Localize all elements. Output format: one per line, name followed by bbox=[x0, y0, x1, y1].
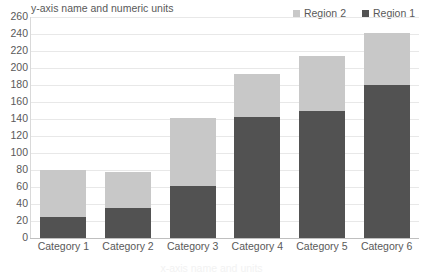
bar-segment-region-2[interactable] bbox=[234, 74, 280, 117]
y-axis-tick-labels: 260240220200180160140120100806040200 bbox=[0, 17, 28, 238]
y-axis-title: y-axis name and numeric units bbox=[31, 2, 173, 14]
y-axis-tick-label: 0 bbox=[2, 232, 28, 243]
bar-stack[interactable] bbox=[40, 170, 86, 238]
y-axis-tick-label: 160 bbox=[2, 96, 28, 107]
legend-swatch-region-2 bbox=[293, 10, 300, 17]
x-axis-tick-label: Category 2 bbox=[96, 240, 160, 253]
bar-stack[interactable] bbox=[234, 74, 280, 238]
x-axis-tick-label: Category 1 bbox=[31, 240, 95, 253]
y-axis-tick-label: 200 bbox=[2, 62, 28, 73]
y-axis-tick-label: 80 bbox=[2, 164, 28, 175]
bar-segment-region-1[interactable] bbox=[40, 217, 86, 238]
bar-segment-region-2[interactable] bbox=[105, 172, 151, 209]
y-axis-tick-label: 40 bbox=[2, 198, 28, 209]
stacked-bar-chart: y-axis name and numeric units Region 2 R… bbox=[0, 0, 423, 280]
x-axis-tick-label: Category 3 bbox=[161, 240, 225, 253]
y-axis-tick-label: 260 bbox=[2, 11, 28, 22]
bar-segment-region-2[interactable] bbox=[40, 170, 86, 217]
bar-segment-region-2[interactable] bbox=[299, 56, 345, 110]
y-axis-tick-label: 60 bbox=[2, 181, 28, 192]
bar-stack[interactable] bbox=[170, 118, 216, 238]
legend-swatch-region-1 bbox=[362, 10, 369, 17]
x-axis-tick-label: Category 6 bbox=[355, 240, 419, 253]
bar-segment-region-1[interactable] bbox=[364, 85, 410, 238]
y-axis-tick-label: 20 bbox=[2, 215, 28, 226]
y-axis-tick-label: 240 bbox=[2, 28, 28, 39]
bar-column bbox=[31, 17, 95, 238]
x-axis-tick-label: Category 4 bbox=[225, 240, 289, 253]
plot-area bbox=[30, 17, 419, 238]
bar-segment-region-2[interactable] bbox=[170, 118, 216, 186]
x-axis-title: x-axis name and units bbox=[0, 262, 423, 274]
y-axis-tick-label: 220 bbox=[2, 45, 28, 56]
bar-stack[interactable] bbox=[299, 56, 345, 238]
bar-column bbox=[225, 17, 289, 238]
bar-series-group bbox=[31, 17, 419, 238]
bar-segment-region-1[interactable] bbox=[234, 117, 280, 238]
bar-column bbox=[355, 17, 419, 238]
x-axis-tick-labels: Category 1Category 2Category 3Category 4… bbox=[31, 240, 419, 256]
bar-segment-region-1[interactable] bbox=[170, 186, 216, 238]
y-axis-tick-label: 180 bbox=[2, 79, 28, 90]
x-axis-line bbox=[30, 238, 419, 239]
y-axis-tick-label: 120 bbox=[2, 130, 28, 141]
bar-column bbox=[96, 17, 160, 238]
bar-stack[interactable] bbox=[105, 172, 151, 238]
bar-segment-region-2[interactable] bbox=[364, 33, 410, 85]
x-axis-tick-label: Category 5 bbox=[290, 240, 354, 253]
bar-segment-region-1[interactable] bbox=[299, 111, 345, 239]
y-axis-tick-label: 100 bbox=[2, 147, 28, 158]
bar-column bbox=[290, 17, 354, 238]
bar-segment-region-1[interactable] bbox=[105, 208, 151, 238]
y-axis-tick-label: 140 bbox=[2, 113, 28, 124]
bar-column bbox=[161, 17, 225, 238]
bar-stack[interactable] bbox=[364, 33, 410, 238]
